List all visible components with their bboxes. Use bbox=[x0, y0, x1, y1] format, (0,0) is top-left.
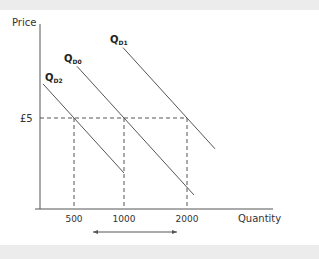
demand-curve-qd1 bbox=[123, 48, 215, 149]
demand-chart: Price Quantity £5 50010002000QD2QD0QD1 bbox=[0, 0, 319, 259]
curve-label-qd1: QD1 bbox=[110, 34, 128, 46]
demand-curve-qd2 bbox=[43, 84, 124, 173]
demand-curve-qd0 bbox=[77, 66, 194, 195]
x-tick-label-2000: 2000 bbox=[176, 214, 199, 224]
curve-label-qd2: QD2 bbox=[45, 72, 63, 84]
price-level-label: £5 bbox=[20, 113, 33, 124]
x-axis-label: Quantity bbox=[238, 213, 281, 224]
curve-label-qd0: QD0 bbox=[64, 53, 82, 65]
x-tick-label-1000: 1000 bbox=[113, 214, 136, 224]
x-tick-label-500: 500 bbox=[65, 214, 82, 224]
range-arrow-left-head bbox=[93, 230, 98, 234]
range-arrow-right-head bbox=[172, 230, 177, 234]
y-axis-label: Price bbox=[12, 17, 36, 28]
